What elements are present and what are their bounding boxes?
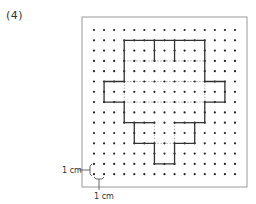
grid-dot (204, 142, 206, 144)
grid-dot (214, 153, 216, 155)
grid-dot (153, 132, 155, 134)
grid-dot (234, 60, 236, 62)
grid-dot (143, 29, 145, 31)
grid-dot (234, 142, 236, 144)
grid-dot (173, 101, 175, 103)
grid-dot (93, 142, 95, 144)
horizontal-unit-label: 1 cm (94, 192, 114, 201)
grid-dot (234, 111, 236, 113)
grid-dot (93, 163, 95, 165)
grid-dot (93, 80, 95, 82)
grid-dot (143, 70, 145, 72)
grid-dot (163, 29, 165, 31)
grid-dot (93, 29, 95, 31)
horizontal-unit-indicator: 1 cm (94, 177, 114, 201)
grid-dot (163, 60, 165, 62)
grid-dot (184, 60, 186, 62)
grid-dot (113, 39, 115, 41)
grid-dot (153, 91, 155, 93)
grid-dot (93, 91, 95, 93)
grid-dot (143, 80, 145, 82)
grid-dot (113, 122, 115, 124)
grid-dot (143, 101, 145, 103)
grid-dot (103, 153, 105, 155)
grid-dot (224, 142, 226, 144)
grid-dot (93, 70, 95, 72)
grid-dot (194, 50, 196, 52)
grid-dot (103, 163, 105, 165)
grid-dot (103, 60, 105, 62)
grid-dot (123, 29, 125, 31)
grid-dot (224, 29, 226, 31)
grid-dot (133, 163, 135, 165)
grid-dot (224, 111, 226, 113)
grid-dot (163, 153, 165, 155)
dot-grid-diagram: 1 cm 1 cm (0, 0, 256, 204)
grid-dot (224, 39, 226, 41)
grid-dot (184, 153, 186, 155)
grid-dot (224, 163, 226, 165)
grid-dot (93, 153, 95, 155)
grid-dot (184, 173, 186, 175)
grid-dot (194, 60, 196, 62)
grid-dot (93, 122, 95, 124)
grid-dot (214, 132, 216, 134)
grid-dot (214, 29, 216, 31)
grid-dot (234, 80, 236, 82)
grid-dot (153, 173, 155, 175)
grid-dot (153, 111, 155, 113)
grid-dot (194, 91, 196, 93)
grid-dot (113, 91, 115, 93)
grid-dot (204, 132, 206, 134)
grid-dot (234, 91, 236, 93)
grid-dot (214, 163, 216, 165)
grid-dot (143, 132, 145, 134)
grid-dot (173, 91, 175, 93)
grid-dot (123, 132, 125, 134)
grid-dot (123, 163, 125, 165)
grid-dot (113, 111, 115, 113)
grid-dot (93, 50, 95, 52)
grid-dot (224, 153, 226, 155)
grid-dot (93, 132, 95, 134)
grid-dot (113, 142, 115, 144)
grid-dot (153, 80, 155, 82)
grid-dot (194, 80, 196, 82)
grid-dot (214, 111, 216, 113)
vertical-unit-label: 1 cm (62, 166, 82, 175)
grid-dot (234, 163, 236, 165)
grid-dot (153, 101, 155, 103)
grid-dot (234, 153, 236, 155)
grid-dot (133, 91, 135, 93)
grid-dot (163, 50, 165, 52)
grid-dot (204, 91, 206, 93)
grid-dot (173, 173, 175, 175)
grid-dot (163, 132, 165, 134)
grid-dot (133, 173, 135, 175)
grid-dot (113, 132, 115, 134)
grid-dot (204, 153, 206, 155)
grid-dot (214, 173, 216, 175)
grid-dot (103, 50, 105, 52)
grid-dot (173, 132, 175, 134)
grid-dot (194, 163, 196, 165)
grid-dot (184, 111, 186, 113)
grid-dot (113, 163, 115, 165)
grid-dot (204, 163, 206, 165)
grid-dot (123, 142, 125, 144)
grid-dot (194, 70, 196, 72)
grid-dot (133, 153, 135, 155)
grid-dot (224, 173, 226, 175)
grid-dot (234, 132, 236, 134)
grid-dot (113, 70, 115, 72)
grid-dot (163, 101, 165, 103)
grid-dot (184, 50, 186, 52)
grid-dot (173, 80, 175, 82)
grid-dot (234, 101, 236, 103)
grid-dot (184, 80, 186, 82)
grid-dot (234, 50, 236, 52)
grid-dot (163, 122, 165, 124)
grid-dot (143, 173, 145, 175)
grid-dot (214, 91, 216, 93)
grid-dot (184, 163, 186, 165)
